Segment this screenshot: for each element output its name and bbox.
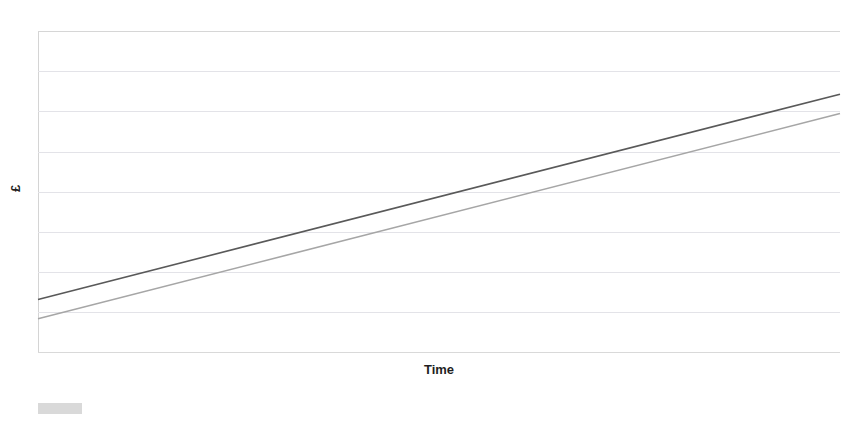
y-axis-title: £ xyxy=(0,168,32,208)
series-line-primary xyxy=(38,94,840,299)
legend-item[interactable] xyxy=(106,403,156,414)
y-axis-title-label: £ xyxy=(9,184,22,191)
chart-legend xyxy=(0,396,852,421)
x-axis-title: Time xyxy=(38,362,840,377)
legend-item[interactable] xyxy=(38,403,88,414)
legend-color-swatch xyxy=(38,403,82,414)
series-line-secondary xyxy=(38,114,840,319)
line-chart-figure: £ Time xyxy=(0,0,852,421)
legend-color-swatch xyxy=(106,403,150,414)
plot-area xyxy=(38,31,840,353)
series-plot xyxy=(38,31,840,353)
